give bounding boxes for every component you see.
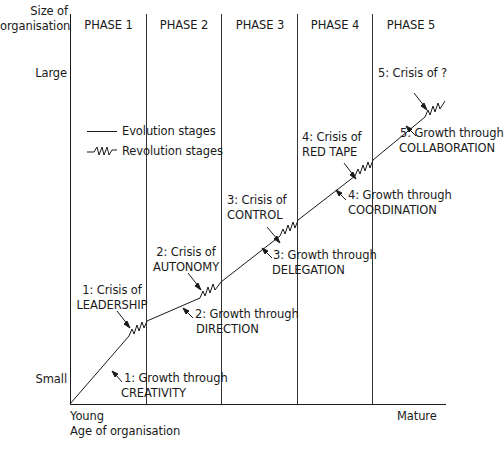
crisis-5-line1: 5: Crisis of ? [378, 66, 447, 81]
y-axis-large-label: Large [0, 66, 67, 81]
crisis-1-line1: 1: Crisis of [76, 283, 148, 298]
growth-5-line2: COLLABORATION [399, 141, 495, 156]
legend-revolution-label: Revolution stages [122, 144, 223, 159]
revolution-zigzag-1 [129, 321, 147, 336]
legend-evolution-label: Evolution stages [122, 124, 216, 139]
y-axis-title-line1: Size of [0, 4, 68, 19]
phase-4-header: PHASE 4 [297, 18, 373, 33]
phase-3-header: PHASE 3 [222, 18, 298, 33]
phase-1-header: PHASE 1 [71, 18, 146, 33]
crisis-3-line1: 3: Crisis of [227, 193, 287, 208]
crisis-2-line1: 2: Crisis of [150, 245, 222, 260]
crisis-3-line2: CONTROL [227, 208, 282, 223]
crisis-2-line2: AUTONOMY [150, 260, 222, 275]
x-axis-mature-label: Mature [397, 409, 437, 424]
phase-5-header: PHASE 5 [373, 18, 449, 33]
phase-2-header: PHASE 2 [146, 18, 222, 33]
crisis-1-line2: LEADERSHIP [76, 298, 148, 313]
x-axis-young-label: Young [70, 409, 104, 424]
revolution-zigzag-5 [425, 101, 445, 117]
revolution-zigzag-4 [355, 160, 373, 176]
growth-2-line1: 2: Growth through [195, 307, 299, 322]
growth-2-line2: DIRECTION [196, 322, 259, 337]
crisis-4-line2: RED TAPE [302, 145, 357, 160]
growth-4-line1: 4: Growth through [348, 188, 452, 203]
crisis-4-line1: 4: Crisis of [302, 130, 362, 145]
growth-1-line2: CREATIVITY [121, 386, 186, 401]
x-axis-title: Age of organisation [70, 424, 180, 439]
y-axis-small-label: Small [0, 372, 67, 387]
growth-4-line2: COORDINATION [348, 203, 437, 218]
growth-5-line1: 5: Growth through [400, 126, 504, 141]
growth-3-line1: 3: Growth through [273, 248, 377, 263]
revolution-zigzag-3 [280, 220, 298, 236]
legend-revolution-zigzag-icon [87, 147, 117, 155]
growth-3-line2: DELEGATION [272, 263, 345, 278]
y-axis-title-line2: organisation [0, 19, 68, 34]
growth-1-line1: 1: Growth through [124, 371, 228, 386]
revolution-zigzag-2 [200, 282, 221, 298]
